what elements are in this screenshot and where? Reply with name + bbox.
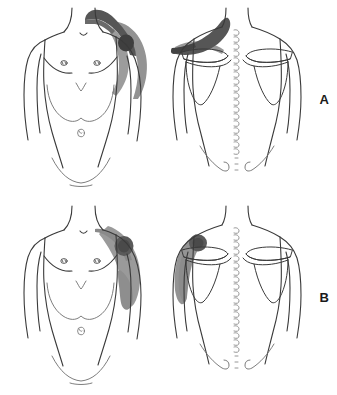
neck-left-p-b	[222, 206, 226, 225]
iliac-crest-left-a	[200, 146, 229, 171]
nipple-left-b	[61, 259, 67, 264]
neck-left-b	[64, 206, 72, 230]
panel-label-a: A	[319, 92, 329, 105]
scapula-right-a	[243, 49, 292, 105]
shoulder-arm-left-a	[24, 40, 45, 140]
panel-label-b: B	[319, 290, 329, 303]
posterior-body-a	[171, 8, 301, 171]
pubic-line-a	[70, 185, 92, 187]
neck-right-b	[95, 206, 103, 230]
panel-a: A	[0, 0, 337, 197]
scapula-right-b	[243, 247, 292, 303]
neck-right-p-b	[248, 206, 252, 225]
torso-left-b	[44, 238, 63, 366]
acromioclavicular-spot-a	[118, 35, 134, 52]
vertebral-spinous-processes-a	[234, 30, 239, 170]
shoulder-arm-left-b	[24, 238, 45, 338]
panel-b: B	[0, 198, 337, 395]
sternal-notch-a	[80, 33, 87, 35]
pectoral-left-b	[44, 256, 72, 271]
nipple-right-b	[94, 259, 100, 264]
anterior-body-a	[24, 8, 147, 187]
sternal-notch-b	[80, 231, 87, 233]
clavicle-left-b	[45, 230, 64, 238]
navel-a	[78, 129, 85, 137]
iliac-crest-left-b	[200, 344, 229, 369]
xiphoid-a	[76, 83, 86, 91]
panel-b-illustration	[0, 198, 337, 395]
clavicle-left-a	[45, 32, 64, 40]
pectoral-right-b	[89, 255, 117, 271]
navel-b	[78, 327, 85, 335]
torso-left-a	[44, 40, 63, 168]
posterior-body-b	[173, 206, 301, 369]
iliac-crest-right-a	[245, 146, 274, 171]
anterior-body-b	[24, 206, 141, 385]
neck-right-p-a	[248, 8, 252, 27]
arm-left-inner-b	[37, 252, 41, 331]
iliac-crest-right-b	[245, 344, 274, 369]
xiphoid-b	[76, 281, 86, 289]
nipple-right-a	[94, 61, 100, 66]
scapula-left-a	[182, 49, 231, 105]
neck-left-a	[64, 8, 72, 32]
pubic-line-b	[70, 383, 92, 385]
arm-left-inner-a	[37, 54, 41, 133]
vertebral-spinous-processes-b	[234, 228, 239, 368]
figure-container: A	[0, 0, 337, 395]
panel-a-illustration	[0, 0, 337, 197]
deltoid-spot-core-b	[118, 240, 130, 253]
torso-right-a	[98, 37, 117, 167]
nipple-left-a	[61, 61, 67, 66]
pectoral-left-a	[44, 58, 72, 73]
pectoral-right-a	[89, 57, 117, 73]
lateral-shoulder-lower-shade-b	[179, 256, 191, 302]
